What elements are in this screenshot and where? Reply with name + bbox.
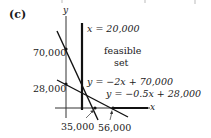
y-tick-28000: 28,000 bbox=[33, 84, 66, 94]
feasible-label-line2: set bbox=[114, 58, 128, 68]
label-shallow-line: y = −0.5x + 28,000 bbox=[106, 89, 201, 99]
x-axis-label: x bbox=[150, 103, 155, 112]
y-tick-70000: 70,000 bbox=[33, 48, 66, 58]
intercept-56000-dot bbox=[111, 106, 114, 109]
y-axis-label: y bbox=[63, 6, 68, 15]
label-steep-line: y = −2x + 70,000 bbox=[87, 77, 173, 87]
x-tick-35000: 35,000 bbox=[61, 122, 94, 132]
feasible-label-line1: feasible bbox=[104, 46, 141, 56]
label-x-20000: x = 20,000 bbox=[87, 24, 140, 34]
feasible-set-diagram bbox=[0, 0, 211, 138]
x-tick-56000: 56,000 bbox=[98, 123, 131, 133]
arrowhead-35000 bbox=[90, 110, 94, 113]
panel-label: (c) bbox=[9, 9, 26, 20]
intercept-35000-dot bbox=[93, 106, 96, 109]
arrowhead-56000 bbox=[110, 110, 113, 114]
